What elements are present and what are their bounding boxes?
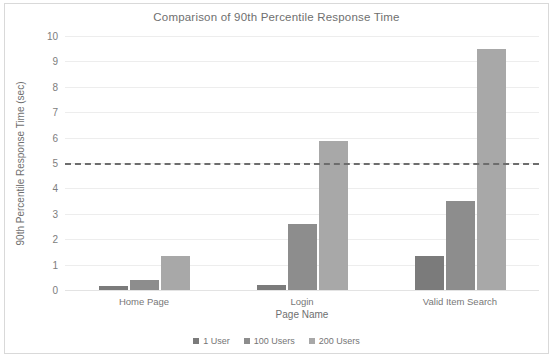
legend-item[interactable]: 100 Users [244, 336, 295, 346]
threshold-line [65, 163, 539, 165]
x-axis-tick-label: Home Page [119, 296, 169, 307]
x-axis-tick-label: Valid Item Search [423, 296, 497, 307]
bar[interactable] [130, 280, 159, 290]
y-axis-tick-label: 10 [47, 31, 58, 42]
y-axis-tick-label: 2 [52, 234, 58, 245]
y-axis-tick-label: 9 [52, 56, 58, 67]
chart-container: Comparison of 90th Percentile Response T… [4, 3, 549, 354]
legend-swatch-icon [244, 338, 250, 344]
legend-item[interactable]: 200 Users [309, 336, 360, 346]
legend-label: 200 Users [319, 336, 360, 346]
bar[interactable] [288, 224, 317, 290]
chart-title: Comparison of 90th Percentile Response T… [5, 11, 548, 23]
bar[interactable] [415, 256, 444, 290]
legend-label: 100 Users [254, 336, 295, 346]
legend-swatch-icon [193, 338, 199, 344]
y-axis-tick-label: 5 [52, 158, 58, 169]
x-axis-title: Page Name [65, 309, 539, 320]
y-axis-tick-label: 8 [52, 81, 58, 92]
bar[interactable] [161, 256, 190, 290]
legend-label: 1 User [203, 336, 230, 346]
bar[interactable] [257, 285, 286, 290]
y-axis-tick-label: 7 [52, 107, 58, 118]
x-axis-tick-label: Login [290, 296, 313, 307]
y-axis-tick-label: 1 [52, 259, 58, 270]
y-axis-title: 90th Percentile Response Time (sec) [14, 36, 28, 290]
gridline [65, 290, 539, 291]
y-axis-tick-label: 3 [52, 208, 58, 219]
bar[interactable] [99, 286, 128, 290]
legend-item[interactable]: 1 User [193, 336, 230, 346]
y-axis-title-label: 90th Percentile Response Time (sec) [16, 81, 27, 245]
bar[interactable] [446, 201, 475, 290]
y-axis-tick-label: 4 [52, 183, 58, 194]
y-axis-tick-label: 6 [52, 132, 58, 143]
legend-swatch-icon [309, 338, 315, 344]
bar[interactable] [477, 49, 506, 290]
y-axis-tick-label: 0 [52, 285, 58, 296]
plot-area: 012345678910Home PageLoginValid Item Sea… [65, 36, 539, 290]
chart-legend: 1 User100 Users200 Users [5, 336, 548, 346]
